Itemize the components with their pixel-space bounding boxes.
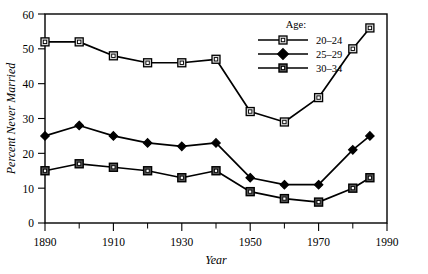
x-tick-label-1890: 1890 <box>34 236 57 248</box>
data-point <box>144 167 152 175</box>
data-point <box>246 188 254 196</box>
data-point <box>280 195 288 203</box>
data-point <box>178 174 186 182</box>
data-point <box>41 132 49 140</box>
data-point <box>349 184 357 192</box>
x-tick-label-1950: 1950 <box>239 236 262 248</box>
data-point <box>315 94 323 102</box>
legend-heading: Age: <box>286 19 306 30</box>
data-point <box>41 38 49 46</box>
data-point <box>212 167 220 175</box>
series-30-34 <box>41 160 374 206</box>
legend: Age: 20–24 25–29 30–34 <box>258 19 343 74</box>
legend-marker-filled-square-inner-icon <box>281 66 284 69</box>
data-point <box>144 59 152 67</box>
series-25-29 <box>41 121 374 189</box>
x-tick-label-1910: 1910 <box>102 236 125 248</box>
data-point <box>75 160 83 168</box>
legend-item-30-34[interactable]: 30–34 <box>258 63 343 74</box>
legend-item-25-29[interactable]: 25–29 <box>258 49 342 60</box>
data-point <box>366 24 374 32</box>
y-tick-label-40: 40 <box>23 78 35 90</box>
data-point <box>280 118 288 126</box>
legend-label-30-34: 30–34 <box>316 63 343 74</box>
data-point <box>212 55 220 63</box>
x-axis: 1890 1910 1930 1950 1970 1990 <box>34 223 399 248</box>
data-point <box>315 198 323 206</box>
x-tick-label-1930: 1930 <box>170 236 193 248</box>
data-point <box>75 38 83 46</box>
legend-marker-open-square-inner-icon <box>281 38 284 41</box>
y-tick-label-20: 20 <box>23 148 35 160</box>
chart-container: 60 50 40 30 20 10 0 Percent Never Marrie… <box>0 0 428 274</box>
data-point <box>75 121 83 129</box>
y-tick-label-30: 30 <box>23 113 35 125</box>
legend-label-25-29: 25–29 <box>316 49 342 60</box>
data-point <box>109 52 117 60</box>
data-point <box>109 132 117 140</box>
data-point <box>178 142 186 150</box>
x-axis-title: Year <box>205 253 227 267</box>
y-tick-label-0: 0 <box>28 217 34 229</box>
data-point <box>366 174 374 182</box>
legend-item-20-24[interactable]: 20–24 <box>258 35 343 46</box>
data-point <box>349 45 357 53</box>
legend-marker-filled-diamond-icon <box>278 49 289 60</box>
data-point <box>41 167 49 175</box>
y-axis-title: Percent Never Married <box>4 62 18 176</box>
data-point <box>280 180 288 188</box>
data-point <box>143 139 151 147</box>
data-point <box>246 108 254 116</box>
x-tick-label-1970: 1970 <box>307 236 330 248</box>
data-point <box>109 163 117 171</box>
y-tick-label-10: 10 <box>23 183 35 195</box>
legend-label-20-24: 20–24 <box>316 35 343 46</box>
series-line-1 <box>45 125 370 184</box>
y-tick-label-60: 60 <box>23 9 35 21</box>
line-chart: 60 50 40 30 20 10 0 Percent Never Marrie… <box>0 0 428 274</box>
data-point <box>178 59 186 67</box>
y-tick-label-50: 50 <box>23 43 35 55</box>
x-tick-label-1990: 1990 <box>376 236 399 248</box>
